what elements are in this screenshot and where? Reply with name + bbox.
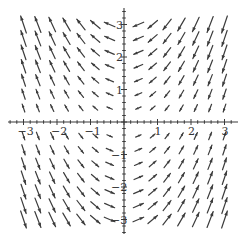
field-arrow-icon (63, 18, 70, 31)
field-arrow-icon (63, 213, 70, 226)
x-tick-label: −3 (18, 125, 34, 138)
field-arrow-icon (107, 107, 112, 109)
y-tick-label: 1 (116, 84, 123, 97)
field-arrow-icon (207, 45, 212, 59)
field-arrow-icon (79, 133, 83, 138)
field-arrow-icon (77, 201, 85, 211)
field-arrow-icon (21, 30, 27, 46)
field-arrow-icon (91, 215, 100, 223)
field-arrow-icon (49, 199, 55, 213)
field-arrow-icon (106, 162, 114, 165)
field-arrow-icon (77, 187, 84, 196)
field-arrow-icon (51, 105, 54, 112)
field-arrow-icon (35, 212, 41, 228)
field-arrow-icon (63, 47, 69, 58)
field-arrow-icon (209, 104, 212, 111)
x-tick-label: −2 (51, 125, 67, 138)
field-arrow-icon (208, 158, 212, 169)
field-arrow-icon (92, 92, 98, 97)
field-arrow-icon (91, 49, 99, 56)
field-arrow-icon (207, 185, 212, 199)
field-arrow-icon (221, 16, 227, 33)
field-arrow-icon (50, 75, 55, 85)
field-arrow-icon (105, 203, 115, 207)
field-arrow-icon (207, 17, 213, 33)
field-arrow-icon (22, 145, 26, 155)
field-arrow-icon (21, 171, 26, 184)
field-arrow-icon (133, 36, 143, 40)
field-arrow-icon (164, 160, 170, 168)
field-arrow-icon (63, 32, 70, 44)
field-arrow-icon (223, 158, 227, 170)
field-arrow-icon (36, 132, 39, 139)
field-arrow-icon (50, 145, 54, 154)
field-arrow-icon (92, 147, 98, 152)
field-arrow-icon (35, 17, 41, 33)
field-arrow-icon (77, 48, 84, 57)
field-arrow-icon (106, 93, 113, 96)
field-arrow-icon (21, 60, 26, 73)
field-arrow-icon (222, 198, 228, 214)
x-tick-label: 1 (155, 125, 162, 138)
field-arrow-icon (179, 146, 184, 154)
field-arrow-icon (163, 214, 171, 225)
field-arrow-icon (35, 185, 40, 199)
field-arrow-icon (91, 202, 100, 210)
field-arrow-icon (106, 79, 114, 82)
field-arrow-icon (91, 63, 99, 70)
field-arrow-icon (134, 162, 142, 165)
field-arrow-icon (148, 215, 157, 223)
field-arrow-icon (91, 174, 99, 181)
field-arrow-icon (35, 198, 41, 213)
x-tick-label: −1 (85, 125, 101, 138)
field-arrow-icon (180, 133, 184, 139)
field-arrow-icon (223, 145, 227, 155)
field-arrow-icon (193, 172, 198, 183)
field-arrow-icon (49, 32, 55, 46)
field-arrow-icon (93, 106, 98, 110)
field-arrow-icon (21, 45, 26, 60)
field-arrow-icon (134, 176, 143, 180)
field-arrow-icon (21, 198, 27, 214)
field-arrow-icon (207, 198, 213, 213)
field-arrow-icon (193, 32, 199, 46)
field-arrow-icon (178, 32, 185, 44)
field-arrow-icon (179, 159, 184, 168)
x-tick-label: 3 (222, 125, 229, 138)
field-arrow-icon (134, 64, 143, 68)
field-arrow-icon (135, 93, 142, 96)
field-arrow-icon (178, 213, 185, 226)
field-arrow-icon (222, 45, 227, 60)
field-arrow-icon (22, 158, 26, 170)
field-arrow-icon (178, 47, 184, 58)
field-arrow-icon (50, 90, 54, 99)
field-arrow-icon (133, 22, 144, 27)
field-arrow-icon (21, 74, 25, 86)
y-tick-label: −2 (111, 181, 127, 194)
field-arrow-icon (194, 145, 198, 154)
field-arrow-icon (165, 133, 169, 138)
field-arrow-icon (77, 19, 85, 30)
field-arrow-icon (35, 45, 40, 59)
field-arrow-icon (105, 50, 114, 54)
field-arrow-icon (133, 217, 144, 222)
field-arrow-icon (149, 49, 157, 56)
field-arrow-icon (178, 186, 184, 197)
field-arrow-icon (193, 75, 198, 85)
field-arrow-icon (222, 211, 228, 228)
field-arrow-icon (192, 17, 199, 31)
field-arrow-icon (148, 202, 157, 210)
field-arrow-icon (194, 90, 198, 99)
field-arrow-icon (193, 185, 199, 198)
field-arrow-icon (22, 104, 25, 112)
field-arrow-icon (36, 75, 40, 86)
field-arrow-icon (163, 33, 171, 43)
field-arrow-icon (92, 161, 99, 167)
field-arrow-icon (36, 89, 40, 99)
field-arrow-icon (91, 20, 100, 28)
field-arrow-icon (77, 33, 85, 43)
field-arrow-icon (63, 186, 69, 197)
field-arrow-icon (50, 159, 55, 169)
field-arrow-icon (79, 105, 83, 110)
field-arrow-icon (192, 212, 199, 226)
